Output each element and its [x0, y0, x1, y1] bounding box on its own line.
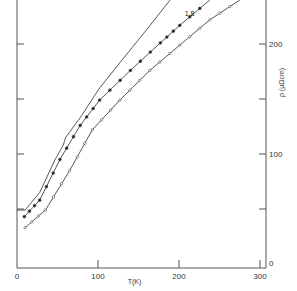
- data-point: [91, 129, 93, 131]
- data-point: [199, 27, 201, 29]
- series-line: [17, 0, 170, 210]
- data-point: [108, 89, 111, 92]
- data-point: [165, 36, 168, 39]
- curve-annotation: 1.8: [185, 10, 195, 17]
- data-point: [98, 99, 101, 102]
- data-point: [159, 42, 162, 45]
- data-point: [85, 116, 88, 119]
- data-point: [59, 158, 62, 161]
- y-axis-label: ρ (μΩcm): [278, 68, 286, 97]
- data-point: [92, 107, 95, 110]
- y-tick-label: 0: [269, 259, 274, 268]
- data-point: [119, 99, 121, 101]
- y-tick-label: 100: [269, 150, 283, 159]
- data-point: [119, 79, 122, 82]
- data-point: [23, 215, 26, 218]
- data-point: [109, 109, 111, 111]
- chart-axes: [17, 0, 266, 268]
- data-point: [24, 227, 26, 229]
- series-line: [25, 0, 240, 228]
- data-point: [139, 60, 142, 63]
- x-tick-label: 100: [91, 272, 105, 281]
- data-point: [37, 215, 39, 217]
- data-point: [149, 51, 152, 54]
- data-point: [178, 24, 181, 27]
- data-point: [52, 172, 55, 175]
- data-point: [219, 12, 221, 14]
- data-point: [179, 44, 181, 46]
- series-line: [24, 0, 210, 217]
- x-tick-label: 200: [172, 272, 186, 281]
- data-point: [38, 199, 41, 202]
- resistivity-chart: 01002003000100200T(K)ρ (μΩcm)1.8: [0, 0, 297, 291]
- data-point: [79, 124, 82, 127]
- data-point: [198, 7, 201, 10]
- data-point: [28, 210, 31, 213]
- data-point: [84, 142, 86, 144]
- data-point: [169, 52, 171, 54]
- data-point: [209, 19, 211, 21]
- data-point: [100, 119, 102, 121]
- data-point: [68, 169, 70, 171]
- data-point: [129, 69, 132, 72]
- data-point: [159, 61, 161, 63]
- data-point: [149, 69, 151, 71]
- data-point: [65, 147, 68, 150]
- series-2: [24, 0, 240, 229]
- series-0: [17, 0, 170, 210]
- x-tick-label: 300: [253, 272, 267, 281]
- data-point: [52, 196, 54, 198]
- data-point: [31, 221, 33, 223]
- data-point: [189, 35, 191, 37]
- data-point: [172, 30, 175, 33]
- y-tick-label: 200: [269, 40, 283, 49]
- data-point: [45, 185, 48, 188]
- data-point: [44, 209, 46, 211]
- series-1: [23, 0, 210, 218]
- data-point: [229, 5, 231, 7]
- data-point: [33, 204, 36, 207]
- x-axis-label: T(K): [128, 278, 142, 286]
- data-point: [76, 156, 78, 158]
- data-point: [60, 183, 62, 185]
- data-point: [129, 89, 131, 91]
- chart-series: [17, 0, 240, 229]
- data-point: [72, 135, 75, 138]
- data-point: [139, 79, 141, 81]
- x-tick-label: 0: [15, 272, 20, 281]
